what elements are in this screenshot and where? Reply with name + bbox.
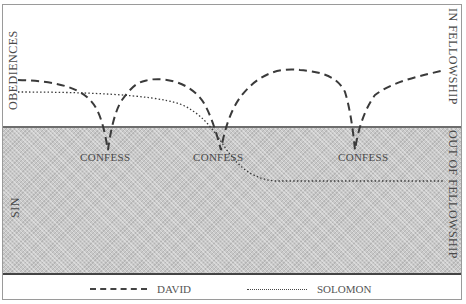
sin-label: SIN [8, 197, 23, 218]
confess-marker-3: CONFESS [338, 151, 388, 163]
confess-marker-1: CONFESS [80, 151, 130, 163]
legend-label-david: DAVID [157, 283, 191, 295]
in-fellowship-label: IN FELLOWSHIP [445, 8, 460, 105]
legend-item-solomon: SOLOMON [247, 283, 371, 295]
obediences-label: OBEDIENCES [6, 30, 21, 110]
legend-item-david: DAVID [90, 283, 191, 295]
dotted-line-icon [247, 289, 307, 290]
legend-label-solomon: SOLOMON [317, 283, 371, 295]
out-of-fellowship-label: OUT OF FELLOWSHIP [445, 130, 460, 259]
confess-marker-2: CONFESS [193, 151, 243, 163]
solomon-curve [18, 92, 445, 181]
dashed-line-icon [90, 288, 147, 290]
legend: DAVID SOLOMON [0, 279, 466, 299]
david-curve [18, 69, 445, 150]
